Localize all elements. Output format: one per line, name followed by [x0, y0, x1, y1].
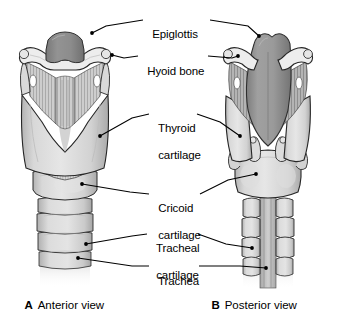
- tracheal-rings-anterior: [37, 197, 93, 270]
- label-epiglottis: Epiglottis: [146, 14, 198, 41]
- trachealis-membrane: [260, 196, 276, 288]
- thyroid-foramen-right: [94, 75, 101, 87]
- label-tracheal-cartilage-line1: Tracheal: [156, 242, 200, 254]
- caption-b-text: Posterior view: [225, 299, 297, 310]
- caption-b-letter: B: [211, 299, 219, 310]
- thyroid-foramen-posterior-left: [234, 77, 240, 89]
- epiglottis-anterior: [46, 32, 85, 63]
- label-thyroid-cartilage-line1: Thyroid: [158, 122, 196, 134]
- thyroid-foramen-posterior-right: [296, 77, 302, 89]
- label-thyroid-cartilage-line2: cartilage: [158, 149, 201, 161]
- label-trachea: Trachea: [152, 261, 199, 288]
- label-epiglottis-line1: Epiglottis: [152, 28, 198, 40]
- label-cricoid-cartilage-line1: Cricoid: [158, 202, 193, 214]
- leader-tracheal-left: [86, 234, 147, 244]
- caption-a-text: Anterior view: [38, 299, 104, 310]
- label-trachea-line1: Trachea: [158, 275, 199, 287]
- posterior-view-diagram: [224, 34, 313, 289]
- caption-anterior-view: AAnterior view: [18, 287, 104, 310]
- caption-posterior-view: BPosterior view: [205, 287, 297, 310]
- anterior-view-diagram: [19, 32, 110, 288]
- caption-a-letter: A: [24, 299, 32, 310]
- thyroid-foramen-left: [30, 75, 37, 87]
- leader-epiglottis-right: [210, 20, 259, 36]
- label-hyoid-bone: Hyoid bone: [141, 51, 204, 78]
- leader-epiglottis-left: [92, 20, 143, 33]
- epiglottis-posterior: [246, 34, 291, 146]
- leader-hyoid-left: [112, 55, 138, 58]
- label-hyoid-bone-line1: Hyoid bone: [147, 65, 204, 77]
- label-thyroid-cartilage: Thyroid cartilage: [152, 108, 201, 162]
